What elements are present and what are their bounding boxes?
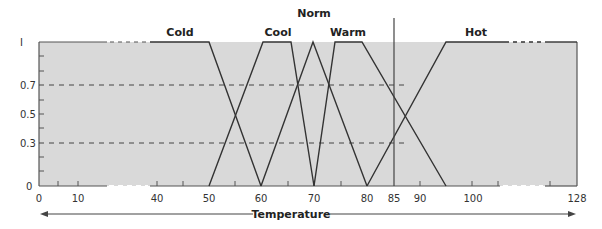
- arrow-right-icon: [568, 211, 576, 217]
- label-norm: Norm: [297, 7, 331, 20]
- plot-area: [39, 42, 577, 186]
- label-cold: Cold: [166, 26, 193, 39]
- ytick-1: I: [20, 37, 23, 48]
- xtick-128: 128: [567, 193, 586, 204]
- ytick-0: 0: [26, 181, 32, 192]
- label-hot: Hot: [465, 26, 487, 39]
- ytick-0.5: 0.5: [20, 109, 36, 120]
- xtick-85: 85: [388, 193, 401, 204]
- xtick-50: 50: [203, 193, 216, 204]
- ytick-0.3: 0.3: [20, 138, 36, 149]
- xtick-80: 80: [361, 193, 374, 204]
- x-axis-label: Temperature: [251, 208, 330, 221]
- fuzzy-membership-chart: Cold Cool Norm Warm Hot I 0.7 0.5 0.3 0 …: [0, 0, 602, 229]
- xtick-60: 60: [255, 193, 268, 204]
- arrow-left-icon: [40, 211, 48, 217]
- xtick-40: 40: [151, 193, 164, 204]
- ytick-0.7: 0.7: [20, 80, 36, 91]
- label-warm: Warm: [330, 26, 366, 39]
- xtick-0: 0: [36, 193, 42, 204]
- label-cool: Cool: [265, 26, 292, 39]
- xtick-10: 10: [72, 193, 85, 204]
- xtick-90: 90: [414, 193, 427, 204]
- xtick-100: 100: [463, 193, 482, 204]
- xtick-70: 70: [308, 193, 321, 204]
